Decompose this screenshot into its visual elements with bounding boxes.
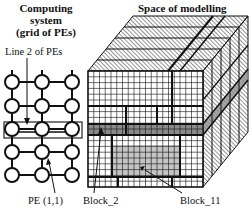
pe-grid: [4, 58, 82, 193]
arrow-head-icon: [46, 158, 51, 165]
diagram-canvas: [0, 0, 252, 211]
model-cube: [88, 16, 248, 193]
pe-arrow: [49, 162, 55, 193]
front-grid: [88, 71, 203, 187]
